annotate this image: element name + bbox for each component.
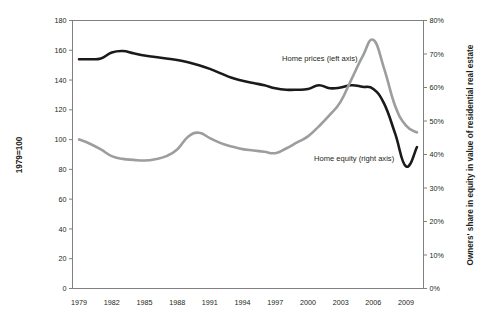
x-tick-label: 1994 <box>235 298 251 307</box>
right-tick-label: 40% <box>430 150 445 159</box>
left-tick-label: 100 <box>55 135 67 144</box>
left-tick-label: 80 <box>59 165 67 174</box>
x-tick-label: 1979 <box>71 298 87 307</box>
x-tick-label: 2009 <box>398 298 414 307</box>
left-tick-label: 160 <box>55 46 67 55</box>
right-tick-label: 10% <box>430 251 445 260</box>
x-tick-label: 2006 <box>365 298 381 307</box>
right-tick-label: 0% <box>430 284 441 293</box>
chart-background <box>0 0 487 321</box>
right-tick-label: 30% <box>430 184 445 193</box>
series-annotation-label: Home equity (right axis) <box>314 154 395 163</box>
chart-container: 020406080100120140160180 0%10%20%30%40%5… <box>0 0 487 321</box>
left-tick-label: 180 <box>55 16 67 25</box>
left-tick-label: 60 <box>59 195 67 204</box>
series-annotation-label: Home prices (left axis) <box>282 54 358 63</box>
left-tick-label: 0 <box>63 284 67 293</box>
line-chart: 020406080100120140160180 0%10%20%30%40%5… <box>0 0 487 321</box>
left-axis-title: 1979=100 <box>15 136 24 173</box>
x-tick-label: 2000 <box>300 298 316 307</box>
right-tick-label: 20% <box>430 217 445 226</box>
x-tick-label: 1988 <box>169 298 185 307</box>
x-tick-label: 2003 <box>333 298 349 307</box>
x-tick-label: 1982 <box>104 298 120 307</box>
right-tick-label: 60% <box>430 83 445 92</box>
right-tick-label: 50% <box>430 117 445 126</box>
right-tick-label: 70% <box>430 50 445 59</box>
right-axis-title: Owners' share in equity in value of resi… <box>466 44 475 265</box>
left-tick-label: 120 <box>55 105 67 114</box>
left-tick-label: 140 <box>55 76 67 85</box>
right-tick-label: 80% <box>430 16 445 25</box>
x-tick-label: 1991 <box>202 298 218 307</box>
left-tick-label: 20 <box>59 254 67 263</box>
x-tick-label: 1997 <box>267 298 283 307</box>
x-tick-label: 1985 <box>136 298 152 307</box>
left-tick-label: 40 <box>59 225 67 234</box>
